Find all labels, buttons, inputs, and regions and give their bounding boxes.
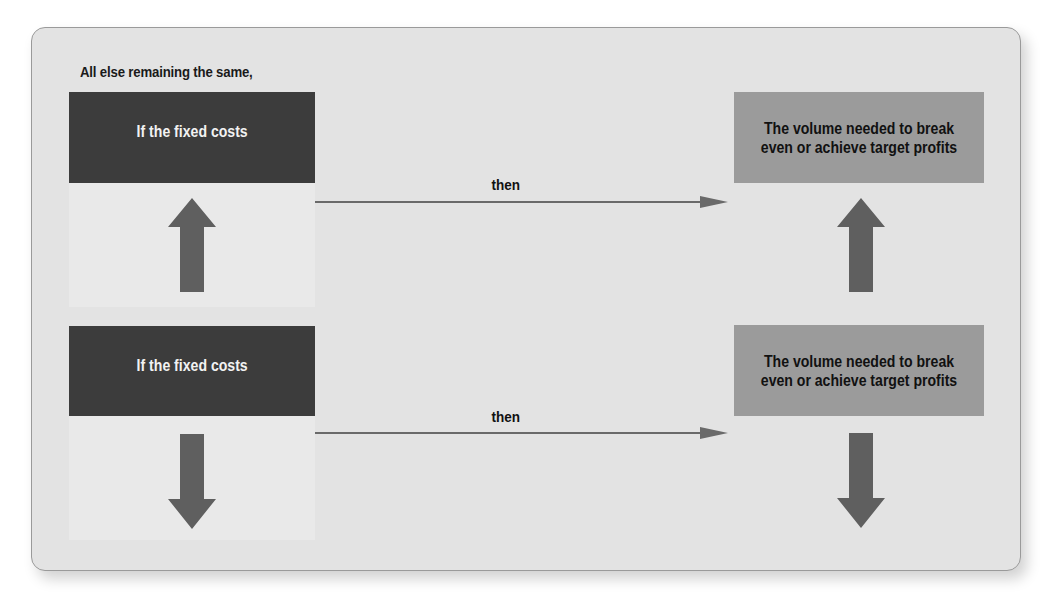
- then-label-bottom: then: [492, 408, 521, 425]
- right-arrow-icon: [315, 425, 735, 441]
- cause-label: If the fixed costs: [136, 356, 247, 375]
- right-arrow-icon: [315, 194, 735, 210]
- then-label-top: then: [492, 176, 521, 193]
- cause-box-increase: If the fixed costs: [69, 92, 315, 183]
- cause-label: If the fixed costs: [136, 122, 247, 141]
- down-arrow-icon: [835, 433, 887, 529]
- up-arrow-icon: [835, 197, 887, 293]
- effect-box-decrease: The volume needed to break even or achie…: [734, 325, 984, 416]
- up-arrow-icon: [166, 197, 218, 293]
- effect-label: The volume needed to break even or achie…: [758, 119, 960, 157]
- intro-text: All else remaining the same,: [80, 63, 253, 80]
- effect-label: The volume needed to break even or achie…: [758, 352, 960, 390]
- down-arrow-icon: [166, 434, 218, 530]
- cause-box-decrease: If the fixed costs: [69, 326, 315, 416]
- effect-box-increase: The volume needed to break even or achie…: [734, 92, 984, 183]
